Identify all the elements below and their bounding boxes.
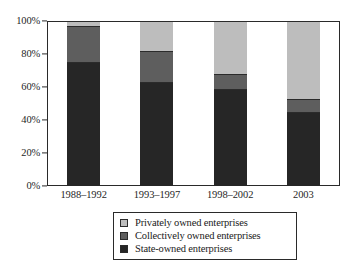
legend-swatch-state-owned-icon <box>120 245 128 253</box>
legend-item: Privately owned enterprises <box>120 216 290 229</box>
legend-label: Privately owned enterprises <box>135 217 248 228</box>
chart-legend: Privately owned enterprises Collectively… <box>113 212 297 260</box>
bars-layer <box>47 21 340 186</box>
stacked-bar-chart-figure: 100%80%60%40%20%0% 1988–19921993–1997199… <box>0 0 358 278</box>
bar-segment <box>140 21 173 51</box>
bar-segment <box>67 62 100 186</box>
bar-group <box>214 21 247 186</box>
legend-item: State-owned enterprises <box>120 242 290 255</box>
legend-item: Collectively owned enterprises <box>120 229 290 242</box>
cropped-caption <box>8 268 338 278</box>
bar-segment <box>67 26 100 62</box>
y-axis: 100%80%60%40%20%0% <box>0 21 47 186</box>
legend-swatch-collectively-owned-icon <box>120 232 128 240</box>
y-tick-label: 60% <box>21 82 40 93</box>
bar-segment <box>140 51 173 82</box>
bar-segment <box>214 21 247 74</box>
bar-group <box>287 21 320 186</box>
x-tick-label: 1988–1992 <box>60 189 106 201</box>
bar-group <box>67 21 100 186</box>
stacked-bar <box>140 21 173 186</box>
y-tick-label: 80% <box>21 49 40 60</box>
x-tick-label: 2003 <box>293 189 314 201</box>
x-tick-label: 1993–1997 <box>134 189 180 201</box>
bar-segment <box>214 74 247 89</box>
y-tick-label: 0% <box>26 181 40 192</box>
y-tick-label: 100% <box>16 16 40 27</box>
y-tick-label: 40% <box>21 115 40 126</box>
stacked-bar <box>214 21 247 186</box>
stacked-bar <box>67 21 100 186</box>
legend-label: Collectively owned enterprises <box>135 230 261 241</box>
bar-group <box>140 21 173 186</box>
bar-segment <box>140 82 173 186</box>
y-tick-label: 20% <box>21 148 40 159</box>
legend-label: State-owned enterprises <box>135 243 232 254</box>
stacked-bar <box>287 21 320 186</box>
bar-segment <box>67 21 100 26</box>
x-tick-label: 1998–2002 <box>207 189 253 201</box>
bar-segment <box>287 112 320 186</box>
bar-segment <box>287 99 320 112</box>
bar-segment <box>214 89 247 186</box>
legend-swatch-privately-owned-icon <box>120 219 128 227</box>
x-axis: 1988–19921993–19971998–20022003 <box>47 187 340 205</box>
bar-segment <box>287 21 320 99</box>
